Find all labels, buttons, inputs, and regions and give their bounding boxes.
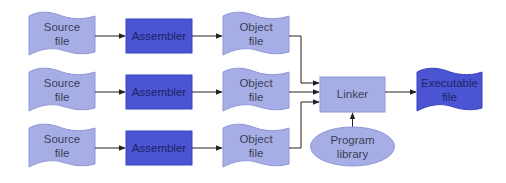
program-library [311,127,395,166]
executable-file [417,68,482,111]
library-label-line1: Program [330,134,374,146]
object-file-1 [223,12,289,55]
object-file-3-label-line1: Object [239,133,273,145]
source-file-1 [29,12,95,55]
linker-label: Linker [337,88,368,100]
source-file-1-label-line1: Source [44,21,80,33]
object-file-2-label-line1: Object [239,77,273,89]
source-file-3 [29,124,95,167]
object-file-2 [223,68,289,111]
object-file-1-label-line2: file [249,35,264,47]
arrow-object1-linker [289,36,319,83]
executable-label-line2: file [442,91,457,103]
object-file-2-label-line2: file [249,91,264,103]
source-file-3-label-line1: Source [44,133,80,145]
object-file-1-label-line1: Object [239,21,273,33]
library-label-line2: library [337,148,369,160]
source-file-1-label-line2: file [55,35,70,47]
assembler-2-label: Assembler [132,86,186,98]
object-file-3-label-line2: file [249,147,264,159]
assembler-3-label: Assembler [132,142,186,154]
assembler-linker-diagram: Source file Assembler Object file Source… [0,0,506,183]
source-file-2 [29,68,95,111]
assembler-1-label: Assembler [132,30,186,42]
executable-label-line1: Executable [421,77,478,89]
source-file-2-label-line1: Source [44,77,80,89]
object-file-3 [223,124,289,167]
source-file-2-label-line2: file [55,91,70,103]
row-1: Source file Assembler Object file [29,12,289,55]
row-3: Source file Assembler Object file [29,124,289,167]
source-file-3-label-line2: file [55,147,70,159]
row-2: Source file Assembler Object file [29,68,289,111]
